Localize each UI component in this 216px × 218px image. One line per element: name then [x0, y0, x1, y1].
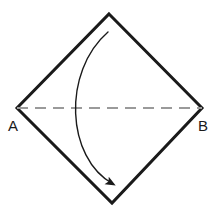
vertex-label-b: B — [198, 117, 208, 134]
vertex-label-a: A — [8, 117, 18, 134]
fold-diagram-svg: A B — [0, 0, 216, 218]
figure-container: A B — [0, 0, 216, 218]
